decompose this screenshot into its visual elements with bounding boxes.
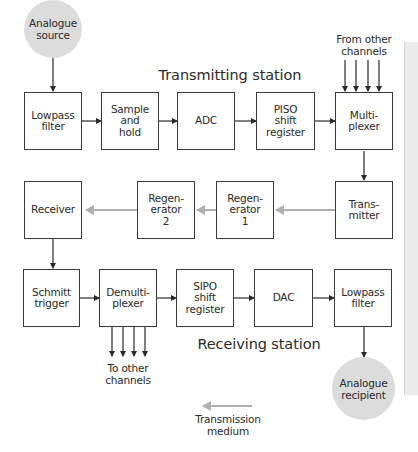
piso-shift-register-label: PISO shift register bbox=[266, 104, 305, 139]
analogue-source-node: Analogue source bbox=[24, 0, 82, 58]
transmitter-label: Trans- mitter bbox=[349, 199, 380, 222]
from-other-channels-label: From other channels bbox=[322, 34, 406, 57]
demultiplexer-block: Demulti- plexer bbox=[99, 269, 157, 327]
adc-label: ADC bbox=[195, 115, 217, 127]
lowpass-filter-tx-label: Lowpass filter bbox=[31, 110, 74, 133]
transmitter-block: Trans- mitter bbox=[335, 181, 393, 239]
multiplexer-block: Multi- plexer bbox=[335, 92, 393, 150]
lowpass-filter-tx-block: Lowpass filter bbox=[24, 92, 82, 150]
page-edge-strip bbox=[404, 42, 418, 395]
sipo-shift-register-label: SIPO shift register bbox=[186, 281, 225, 316]
regenerator-2-block: Regen- erator 2 bbox=[137, 181, 195, 239]
piso-shift-register-block: PISO shift register bbox=[256, 92, 315, 150]
receiver-block: Receiver bbox=[24, 181, 82, 239]
lowpass-filter-rx-block: Lowpass filter bbox=[334, 269, 392, 327]
schmitt-trigger-label: Schmitt trigger bbox=[32, 287, 71, 310]
demultiplexer-label: Demulti- plexer bbox=[106, 287, 150, 310]
sample-and-hold-block: Sample and hold bbox=[101, 92, 159, 150]
analogue-source-label: Analogue source bbox=[29, 17, 77, 41]
regenerator-2-label: Regen- erator 2 bbox=[148, 193, 184, 228]
sipo-shift-register-block: SIPO shift register bbox=[176, 269, 234, 327]
transmission-medium-label: Transmission medium bbox=[188, 414, 268, 437]
adc-block: ADC bbox=[177, 92, 235, 150]
transmitting-station-title: Transmitting station bbox=[140, 67, 320, 83]
regenerator-1-block: Regen- erator 1 bbox=[216, 181, 274, 239]
dac-label: DAC bbox=[273, 292, 295, 304]
to-other-channels-label: To other channels bbox=[96, 363, 160, 386]
lowpass-filter-rx-label: Lowpass filter bbox=[341, 287, 384, 310]
analogue-recipient-node: Analogue recipient bbox=[332, 357, 395, 420]
regenerator-1-label: Regen- erator 1 bbox=[227, 193, 263, 228]
receiving-station-title: Receiving station bbox=[194, 336, 324, 352]
dac-block: DAC bbox=[254, 269, 313, 327]
sample-and-hold-label: Sample and hold bbox=[111, 104, 149, 139]
schmitt-trigger-block: Schmitt trigger bbox=[23, 269, 80, 327]
receiver-label: Receiver bbox=[31, 204, 75, 216]
analogue-recipient-label: Analogue recipient bbox=[340, 377, 388, 401]
multiplexer-label: Multi- plexer bbox=[348, 110, 379, 133]
